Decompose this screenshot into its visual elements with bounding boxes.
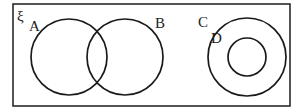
set-c-label: C bbox=[198, 14, 208, 30]
universal-set-frame bbox=[13, 4, 290, 106]
set-a-label: A bbox=[29, 18, 40, 34]
venn-diagram-svg: ξ A B C D bbox=[0, 0, 302, 111]
set-d-label: D bbox=[211, 30, 222, 46]
set-b-label: B bbox=[155, 15, 165, 31]
venn-diagram: ξ A B C D bbox=[0, 0, 302, 111]
universal-set-label: ξ bbox=[17, 8, 24, 24]
